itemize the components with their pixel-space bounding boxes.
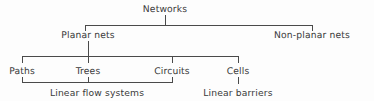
tree-diagram: Networks Planar nets Non-planar nets Pat… xyxy=(0,0,374,101)
node-networks: Networks xyxy=(143,4,187,15)
node-circuits: Circuits xyxy=(154,66,190,77)
connector-lines xyxy=(0,0,374,101)
node-cells: Cells xyxy=(227,66,250,77)
group-label-linear-flow-systems: Linear flow systems xyxy=(50,87,144,98)
node-planar-nets: Planar nets xyxy=(61,30,114,41)
node-non-planar-nets: Non-planar nets xyxy=(274,30,350,41)
node-paths: Paths xyxy=(9,66,35,77)
group-label-linear-barriers: Linear barriers xyxy=(203,87,272,98)
node-trees: Trees xyxy=(76,66,101,77)
